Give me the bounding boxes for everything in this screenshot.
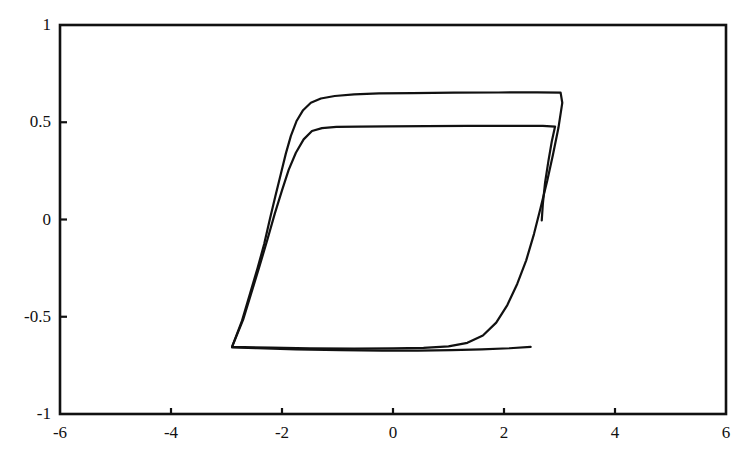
y-tick-label: -0.5 (24, 307, 51, 327)
x-tick-label: 2 (500, 423, 509, 443)
x-tick-label: 0 (389, 423, 398, 443)
series-inner-hysteresis-loop (232, 126, 555, 347)
hysteresis-plot: -1-0.500.51-6-4-20246 (0, 0, 755, 461)
y-tick-label: 0.5 (30, 112, 51, 132)
y-tick-label: 0 (43, 210, 52, 230)
axis-ticks (60, 122, 615, 414)
x-tick-label: -4 (164, 423, 178, 443)
x-tick-label: 6 (722, 423, 731, 443)
x-tick-label: -6 (53, 423, 67, 443)
x-tick-label: -2 (275, 423, 289, 443)
x-tick-label: 4 (611, 423, 620, 443)
series-outer-hysteresis-loop (232, 92, 562, 348)
chart-canvas (0, 0, 755, 461)
y-tick-label: 1 (43, 15, 52, 35)
y-tick-label: -1 (37, 404, 51, 424)
axis-frame (60, 25, 726, 414)
